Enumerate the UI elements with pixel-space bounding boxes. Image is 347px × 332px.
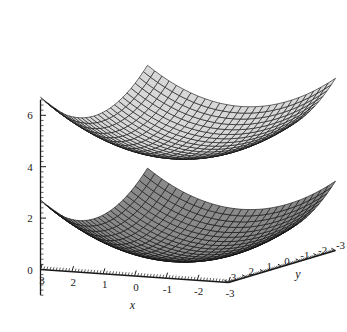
plot-canvas: 02463210-1-2-33210-1-2-3xy [0, 0, 347, 332]
y-tick-label-0: 3 [231, 271, 237, 283]
y-tick-label-1: 2 [249, 265, 255, 277]
x-axis-name: x [129, 298, 136, 312]
z-tick-label-2: 2 [27, 212, 33, 224]
y-axis-name: y [294, 267, 301, 281]
y-tick-label-6: -3 [336, 239, 346, 251]
lower-surface [41, 168, 336, 262]
x-tick-label-2: 1 [102, 278, 108, 290]
x-tick-label-1: 2 [71, 276, 77, 288]
y-tick-label-2: 1 [266, 260, 272, 272]
y-tick-label-5: -2 [318, 244, 327, 256]
x-tick-label-6: -3 [225, 287, 235, 299]
x-tick-label-4: -1 [163, 283, 172, 295]
x-tick-label-5: -2 [194, 285, 203, 297]
x-tick-label-3: 0 [133, 281, 139, 293]
upper-surface [41, 65, 336, 159]
z-tick-label-4: 4 [27, 161, 33, 173]
y-tick-label-3: 0 [284, 255, 290, 267]
surface-plot-figure: 02463210-1-2-33210-1-2-3xy [0, 0, 347, 332]
z-tick-label-0: 0 [27, 264, 33, 276]
z-tick-label-6: 6 [27, 109, 33, 121]
x-tick-label-0: 3 [39, 274, 45, 286]
y-tick-label-4: -1 [300, 249, 309, 261]
